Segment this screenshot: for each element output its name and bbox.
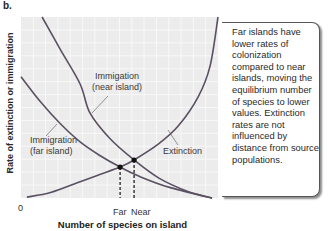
- equilibrium-point-near: [131, 157, 136, 162]
- y-axis-label: Rate of extinction or immigration: [5, 13, 15, 193]
- label-extinction: Extinction: [163, 146, 202, 157]
- x-tick-label-origin: 0: [18, 203, 23, 213]
- label-immigration-far-line1: Immigration: [30, 135, 77, 146]
- label-immigration-far-line2: (far island): [30, 146, 77, 157]
- callout-text: Far islands have lower rates of coloniza…: [232, 26, 320, 165]
- label-immigration-near-line2: (near island): [92, 82, 142, 93]
- x-axis-label: Number of species on island: [40, 219, 205, 230]
- label-immigration-far: Immigration (far island): [30, 135, 77, 157]
- x-tick-label-near: Near: [131, 207, 151, 217]
- equilibrium-point-far: [117, 164, 122, 169]
- x-tick-label-far: Far: [113, 207, 127, 217]
- label-immigration-near: Immigation (near island): [92, 71, 142, 93]
- label-immigration-near-line1: Immigation: [92, 71, 142, 82]
